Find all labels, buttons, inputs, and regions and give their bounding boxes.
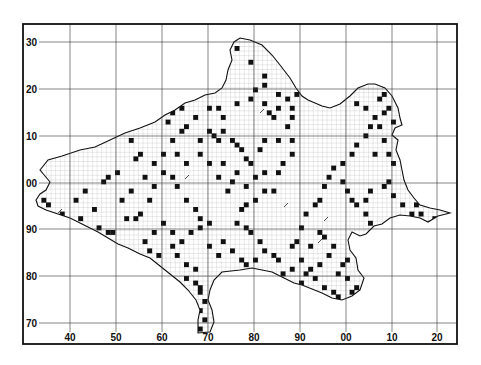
occupied-square	[276, 106, 281, 111]
occupied-square	[193, 267, 198, 272]
occupied-square	[74, 198, 79, 203]
occupied-square	[198, 216, 203, 221]
occupied-square	[368, 189, 373, 194]
y-axis-label: 00	[26, 178, 38, 189]
occupied-square	[377, 124, 382, 129]
occupied-square	[248, 97, 253, 102]
occupied-square	[189, 230, 194, 235]
x-axis-label: 10	[386, 332, 398, 343]
occupied-square	[285, 97, 290, 102]
x-axis-label: 20	[431, 332, 443, 343]
occupied-square	[294, 92, 299, 97]
occupied-square	[175, 184, 180, 189]
occupied-square	[377, 97, 382, 102]
occupied-square	[317, 262, 322, 267]
occupied-square	[138, 152, 143, 157]
occupied-square	[120, 198, 125, 203]
occupied-square	[170, 175, 175, 180]
occupied-square	[267, 110, 272, 115]
occupied-square	[331, 166, 336, 171]
occupied-square	[147, 198, 152, 203]
occupied-square	[193, 115, 198, 120]
y-axis-label: 90	[26, 224, 38, 235]
occupied-square	[225, 189, 230, 194]
occupied-square	[179, 239, 184, 244]
occupied-square	[271, 115, 276, 120]
occupied-square	[262, 138, 267, 143]
occupied-square	[327, 175, 332, 180]
occupied-square	[419, 212, 424, 217]
occupied-square	[331, 244, 336, 249]
occupied-square	[262, 170, 267, 175]
occupied-square	[350, 290, 355, 295]
occupied-square	[340, 161, 345, 166]
x-axis-label: 90	[294, 332, 306, 343]
occupied-square	[133, 216, 138, 221]
occupied-square	[124, 216, 129, 221]
occupied-square	[143, 239, 148, 244]
occupied-square	[202, 317, 207, 322]
occupied-square	[281, 271, 286, 276]
y-axis-label: 20	[26, 84, 38, 95]
occupied-square	[156, 253, 161, 258]
occupied-square	[216, 175, 221, 180]
occupied-square	[235, 101, 240, 106]
occupied-square	[285, 124, 290, 129]
occupied-square	[290, 152, 295, 157]
occupied-square	[340, 262, 345, 267]
x-axis-label: 50	[110, 332, 122, 343]
occupied-square	[221, 115, 226, 120]
occupied-square	[340, 179, 345, 184]
occupied-square	[262, 101, 267, 106]
occupied-square	[230, 248, 235, 253]
occupied-square	[294, 239, 299, 244]
occupied-square	[322, 235, 327, 240]
occupied-square	[350, 198, 355, 203]
occupied-square	[322, 184, 327, 189]
occupied-square	[258, 239, 263, 244]
x-axis-label: 60	[156, 332, 168, 343]
occupied-square	[101, 179, 106, 184]
occupied-square	[230, 179, 235, 184]
occupied-square	[92, 207, 97, 212]
occupied-square	[386, 106, 391, 111]
occupied-square	[147, 248, 152, 253]
occupied-square	[152, 184, 157, 189]
occupied-square	[198, 152, 203, 157]
occupied-square	[198, 138, 203, 143]
y-axis-label: 80	[26, 271, 38, 282]
occupied-square	[41, 198, 46, 203]
occupied-square	[152, 230, 157, 235]
occupied-square	[363, 212, 368, 217]
x-axis-label: 40	[64, 332, 76, 343]
occupied-square	[106, 175, 111, 180]
occupied-square	[276, 92, 281, 97]
occupied-square	[239, 207, 244, 212]
occupied-square	[276, 138, 281, 143]
occupied-square	[290, 106, 295, 111]
occupied-square	[262, 189, 267, 194]
occupied-square	[244, 184, 249, 189]
occupied-square	[46, 202, 51, 207]
distribution-map: 40506070809000102030201000908070	[0, 0, 481, 365]
occupied-square	[170, 244, 175, 249]
occupied-square	[354, 285, 359, 290]
occupied-square	[276, 170, 281, 175]
occupied-square	[216, 138, 221, 143]
occupied-square	[276, 258, 281, 263]
occupied-square	[373, 115, 378, 120]
occupied-square	[138, 212, 143, 217]
occupied-square	[110, 230, 115, 235]
occupied-square	[281, 161, 286, 166]
occupied-square	[354, 202, 359, 207]
occupied-square	[133, 156, 138, 161]
occupied-square	[184, 161, 189, 166]
occupied-square	[106, 230, 111, 235]
occupied-square	[304, 271, 309, 276]
occupied-square	[336, 271, 341, 276]
occupied-square	[248, 161, 253, 166]
occupied-square	[184, 124, 189, 129]
occupied-square	[175, 152, 180, 157]
occupied-square	[313, 202, 318, 207]
occupied-square	[271, 189, 276, 194]
